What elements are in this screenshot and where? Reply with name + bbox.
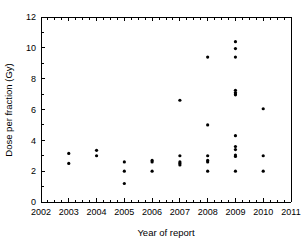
x-tick-label: 2008	[198, 207, 218, 217]
data-point	[234, 170, 237, 173]
plot-canvas: 0246810122002200320042005200620072008200…	[0, 0, 304, 244]
y-tick-label: 0	[31, 197, 36, 207]
data-point	[123, 182, 126, 185]
x-tick-label: 2006	[142, 207, 162, 217]
data-point	[67, 152, 70, 155]
y-tick-label: 2	[31, 166, 36, 176]
axes-group	[41, 17, 291, 202]
x-tick-label: 2005	[114, 207, 134, 217]
data-point	[206, 160, 209, 163]
y-tick-label: 6	[31, 105, 36, 115]
x-axis-title: Year of report	[137, 227, 195, 238]
x-tick-label: 2003	[59, 207, 79, 217]
y-tick-label: 8	[31, 74, 36, 84]
y-tick-label: 10	[26, 43, 36, 53]
x-tick-label: 2009	[225, 207, 245, 217]
tick-labels-group: 0246810122002200320042005200620072008200…	[26, 12, 301, 217]
data-point	[67, 162, 70, 165]
data-points-group	[67, 40, 265, 185]
data-point	[95, 154, 98, 157]
scatter-plot-figure: 0246810122002200320042005200620072008200…	[0, 0, 304, 244]
data-point	[206, 170, 209, 173]
x-tick-label: 2002	[31, 207, 51, 217]
data-point	[206, 123, 209, 126]
ticks-group	[41, 17, 291, 202]
data-point	[234, 40, 237, 43]
data-point	[151, 170, 154, 173]
data-point	[234, 148, 237, 151]
data-point	[234, 134, 237, 137]
x-tick-label: 2004	[87, 207, 107, 217]
data-point	[262, 170, 265, 173]
data-point	[234, 145, 237, 148]
y-tick-label: 4	[31, 136, 36, 146]
x-tick-label: 2007	[170, 207, 190, 217]
y-axis-title: Dose per fraction (Gy)	[3, 63, 14, 156]
data-point	[151, 160, 154, 163]
x-tick-label: 2010	[253, 207, 273, 217]
data-point	[262, 154, 265, 157]
data-point	[234, 47, 237, 50]
y-tick-label: 12	[26, 12, 36, 22]
data-point	[178, 99, 181, 102]
data-point	[262, 107, 265, 110]
data-point	[95, 149, 98, 152]
data-point	[123, 160, 126, 163]
data-point	[234, 55, 237, 58]
data-point	[234, 155, 237, 158]
data-point	[123, 170, 126, 173]
data-point	[178, 154, 181, 157]
data-point	[206, 55, 209, 58]
data-point	[206, 154, 209, 157]
x-tick-label: 2011	[281, 207, 300, 217]
data-point	[178, 163, 181, 166]
data-point	[234, 93, 237, 96]
